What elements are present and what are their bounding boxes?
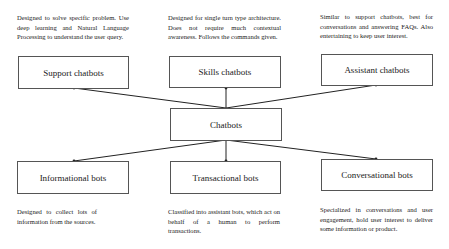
- informational-bots-label: Informational bots: [40, 173, 107, 183]
- arrow-to-conversational: [226, 140, 376, 159]
- informational-bots-box: Informational bots: [17, 161, 129, 194]
- support-chatbots-label: Support chatbots: [43, 68, 104, 78]
- assistant-chatbots-label: Assistant chatbots: [344, 65, 409, 75]
- arrow-to-informational: [74, 140, 226, 161]
- transactional-bots-label: Transactional bots: [193, 173, 259, 183]
- transactional-bots-box: Transactional bots: [170, 161, 281, 194]
- support-chatbots-box: Support chatbots: [18, 56, 129, 89]
- skills-chatbots-box: Skills chatbots: [169, 56, 281, 88]
- assistant-chatbots-box: Assistant chatbots: [321, 54, 433, 86]
- assistant-description: Similar to support chatbots, best for co…: [320, 12, 433, 41]
- conversational-bots-box: Conversational bots: [321, 159, 433, 191]
- conversational-description: Specialized in conversations and user en…: [320, 205, 433, 234]
- chatbots-label: Chatbots: [210, 120, 242, 130]
- arrow-to-support: [74, 88, 226, 108]
- informational-description: Designed to collect lots of information …: [17, 207, 97, 226]
- skills-chatbots-label: Skills chatbots: [199, 67, 252, 77]
- chatbots-box: Chatbots: [170, 108, 282, 141]
- conversational-bots-label: Conversational bots: [341, 170, 413, 180]
- skills-description: Designed for single turn type architectu…: [168, 13, 281, 42]
- support-description: Designed to solve specific problem. Use …: [17, 13, 129, 42]
- arrow-to-assistant: [226, 85, 376, 108]
- transactional-description: Classified into assistant bots, which ac…: [168, 207, 280, 236]
